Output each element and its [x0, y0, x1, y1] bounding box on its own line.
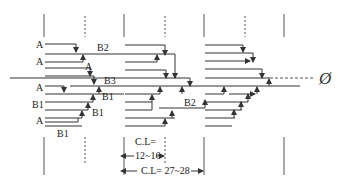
label-b2-top: B2: [97, 42, 109, 53]
label-b3: B3: [104, 75, 116, 86]
label-a-4: A: [36, 82, 44, 93]
cl-short-label: C.L=: [135, 136, 156, 147]
label-a-2: A: [36, 56, 44, 67]
phi-symbol: Ø: [318, 69, 332, 88]
welding-sequence-diagram: A B2 A A B3 A B1 B1 B1 A B1 B2 Ø C.L= 12…: [0, 0, 342, 187]
label-a-3: A: [85, 61, 93, 72]
middle-weld-block: [124, 45, 300, 126]
top-guide-lines: [44, 14, 284, 37]
label-b1-left: B1: [32, 99, 44, 110]
label-b1-mid2: B1: [92, 107, 104, 118]
label-b1-mid1: B1: [102, 91, 114, 102]
label-a-5: A: [36, 115, 44, 126]
diagram-canvas: A B2 A A B3 A B1 B1 B1 A B1 B2 Ø C.L= 12…: [0, 0, 342, 187]
label-a-1: A: [36, 39, 44, 50]
label-b2-right: B2: [184, 97, 196, 108]
dimension-annotations: C.L= 12~16 C.L= 27~28: [125, 136, 203, 176]
label-b1-bottom: B1: [57, 128, 69, 139]
cl-long: C.L= 27~28: [141, 165, 190, 176]
